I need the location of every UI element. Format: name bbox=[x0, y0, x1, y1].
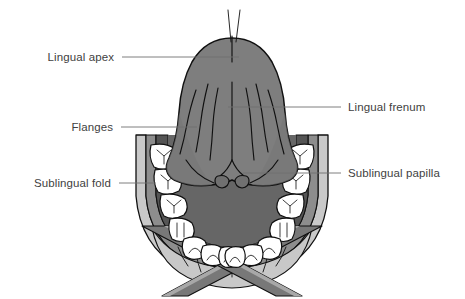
label-flanges: Flanges bbox=[71, 121, 113, 133]
tongue-group bbox=[166, 10, 297, 186]
tongue-diagram-canvas: Lingual apex Flanges Sublingual fold Lin… bbox=[0, 0, 465, 299]
label-sublingual-fold: Sublingual fold bbox=[34, 177, 111, 189]
frenum-stalk-left bbox=[228, 10, 231, 42]
label-lingual-frenum: Lingual frenum bbox=[348, 101, 425, 113]
sublingual-papilla-left bbox=[215, 176, 229, 189]
label-sublingual-papilla: Sublingual papilla bbox=[348, 167, 440, 179]
sublingual-papilla-right bbox=[235, 176, 249, 189]
anatomical-figure: Lingual apex Flanges Sublingual fold Lin… bbox=[0, 0, 465, 299]
tooth-left-premolar-1 bbox=[160, 194, 187, 218]
tooth-right-premolar-1 bbox=[277, 194, 304, 218]
label-lingual-apex: Lingual apex bbox=[48, 51, 115, 63]
tooth-right-incisor-central bbox=[225, 247, 245, 268]
frenum-stalk-right bbox=[236, 10, 240, 42]
